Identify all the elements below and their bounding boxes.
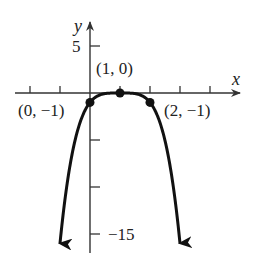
point-label: (1, 0) xyxy=(96,59,133,78)
point-marker xyxy=(146,98,155,107)
x-axis-label: x xyxy=(231,69,240,89)
y-tick-label: −15 xyxy=(108,225,135,244)
function-graph: (0, −1)(1, 0)(2, −1) xy5−15 xyxy=(0,0,256,272)
point-marker xyxy=(116,89,125,98)
y-tick-label: 5 xyxy=(72,37,81,56)
y-axis-label: y xyxy=(72,16,82,36)
curve xyxy=(60,93,180,243)
labeled-points: (0, −1)(1, 0)(2, −1) xyxy=(18,59,210,120)
point-marker xyxy=(86,98,95,107)
axis-labels: xy5−15 xyxy=(72,16,240,244)
point-label: (0, −1) xyxy=(18,101,64,120)
axes xyxy=(15,22,240,253)
function-curve xyxy=(60,93,180,243)
point-label: (2, −1) xyxy=(164,101,210,120)
